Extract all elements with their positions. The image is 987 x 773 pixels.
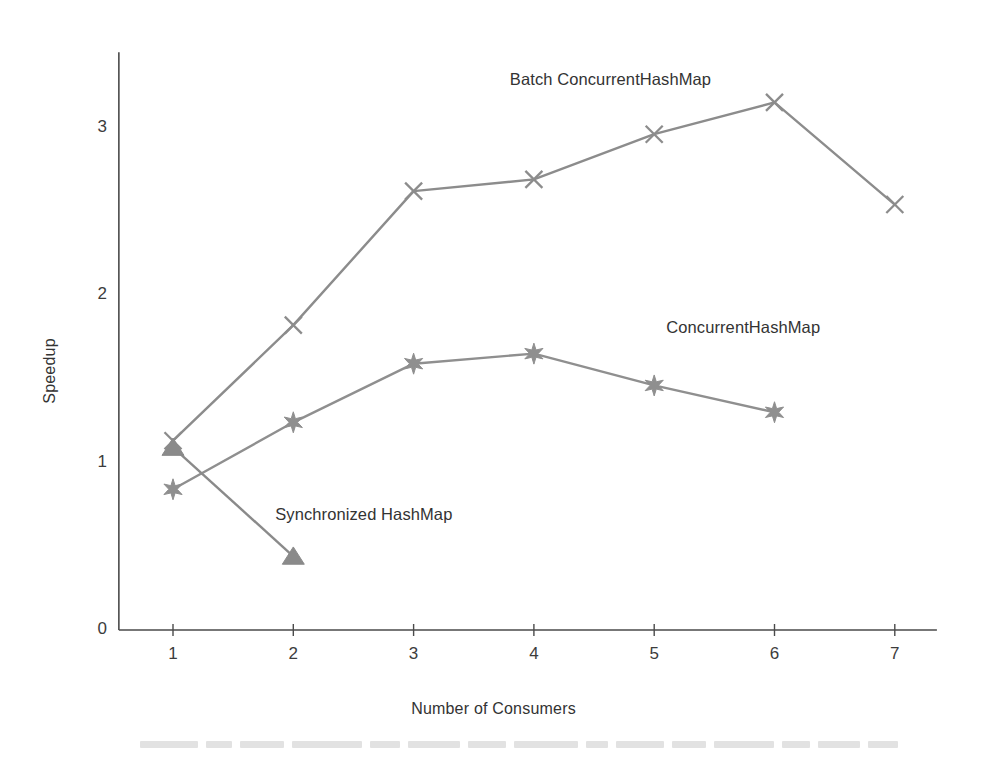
caption-fragment [370, 741, 400, 748]
caption-fragment [818, 741, 860, 748]
caption-fragment [782, 741, 810, 748]
caption-fragment [468, 741, 506, 748]
y-tick-label-0: 0 [67, 619, 107, 639]
marker-star [164, 479, 182, 500]
caption-fragment [868, 741, 898, 748]
x-axis-title: Number of Consumers [0, 700, 987, 718]
series-label-0: Batch ConcurrentHashMap [510, 70, 711, 89]
caption-strip [0, 735, 987, 773]
caption-fragment [672, 741, 706, 748]
caption-fragment [408, 741, 460, 748]
caption-fragment [292, 741, 362, 748]
caption-fragment [206, 741, 232, 748]
caption-fragment [586, 741, 608, 748]
marker-triangle [162, 438, 184, 455]
series-label-2: Synchronized HashMap [275, 505, 452, 524]
x-tick-label-4: 4 [514, 644, 554, 664]
x-tick-label-6: 6 [755, 644, 795, 664]
series-label-1: ConcurrentHashMap [666, 318, 820, 337]
series-line [173, 447, 293, 556]
plot-area [0, 0, 987, 773]
y-tick-label-1: 1 [67, 452, 107, 472]
series-line [173, 354, 775, 490]
x-tick-label-3: 3 [394, 644, 434, 664]
x-tick-label-2: 2 [273, 644, 313, 664]
marker-star [765, 402, 783, 423]
x-tick-label-1: 1 [153, 644, 193, 664]
series-line [173, 102, 895, 440]
x-tick-label-5: 5 [634, 644, 674, 664]
series-0 [165, 94, 904, 449]
marker-star [645, 375, 663, 396]
y-tick-label-2: 2 [67, 284, 107, 304]
chart-figure: Speedup Number of Consumers 01231234567 … [0, 0, 987, 773]
axes [119, 52, 937, 636]
y-tick-label-3: 3 [67, 117, 107, 137]
caption-fragment [714, 741, 774, 748]
series-1 [164, 343, 784, 500]
caption-fragment [240, 741, 284, 748]
y-axis-title: Speedup [41, 311, 59, 431]
x-tick-label-7: 7 [875, 644, 915, 664]
caption-fragment [514, 741, 578, 748]
caption-fragment [140, 741, 198, 748]
caption-fragment [616, 741, 664, 748]
marker-star [284, 412, 302, 433]
